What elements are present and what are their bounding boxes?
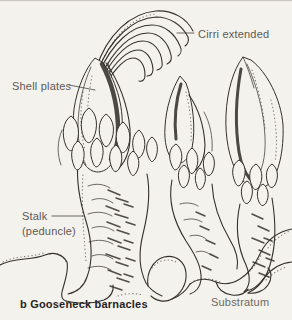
label-stalk-line2: (peduncle) [22,224,76,239]
label-cirri-extended: Cirri extended [198,27,269,42]
label-stalk: Stalk (peduncle) [22,209,76,239]
page-edge-artifact [0,0,292,1]
figure-caption: b Gooseneck barnacles [20,298,148,310]
barnacle-illustration [0,0,292,320]
label-substratum: Substratum [211,295,269,310]
substratum-rock [0,229,292,303]
right-barnacle-cluster [165,57,283,294]
label-shell-plates: Shell plates [12,79,71,94]
label-stalk-line1: Stalk [22,209,76,224]
figure-panel: Cirri extended Shell plates Stalk (pedun… [0,0,292,320]
